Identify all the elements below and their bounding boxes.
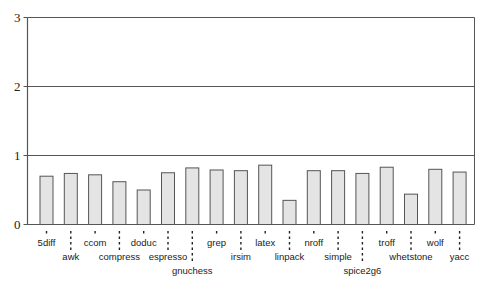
y-tick-label: 1 (14, 148, 21, 163)
bar-compress (113, 182, 126, 225)
x-tick-label: grep (207, 237, 226, 248)
bar-doduc (137, 190, 150, 225)
x-tick-label: ccom (84, 237, 107, 248)
x-tick-label: nroff (304, 237, 323, 248)
bar-simple (332, 171, 345, 225)
bar-gnuchess (186, 168, 199, 225)
bar-whetstone (405, 194, 418, 224)
x-tick-label: simple (324, 251, 351, 262)
y-axis: 0123 (14, 10, 28, 232)
bar-espresso (162, 173, 175, 225)
bar-linpack (283, 200, 296, 224)
bar-5diff (40, 176, 53, 224)
bar-awk (64, 173, 77, 224)
bar-irsim (234, 171, 247, 225)
x-tick-label: espresso (149, 251, 188, 262)
x-tick-label: linpack (275, 251, 305, 262)
x-tick-label: 5diff (38, 237, 56, 248)
x-tick-label: troff (379, 237, 396, 248)
x-axis-labels: 5diffawkccomcompressdoducespressognuches… (38, 231, 470, 276)
x-tick-label: irsim (231, 251, 251, 262)
bar-ccom (89, 175, 102, 225)
bar-latex (259, 165, 272, 224)
x-tick-label: latex (255, 237, 275, 248)
x-tick-label: doduc (131, 237, 157, 248)
bar-spice2g6 (356, 173, 369, 224)
x-tick-label: wolf (426, 237, 444, 248)
x-tick-label: yacc (450, 251, 470, 262)
x-tick-label: awk (62, 251, 79, 262)
bar-wolf (429, 169, 442, 224)
bars (40, 165, 466, 224)
x-tick-label: whetstone (388, 251, 432, 262)
y-tick-label: 2 (14, 79, 21, 94)
y-tick-label: 0 (14, 217, 21, 232)
bar-troff (380, 167, 393, 224)
bar-nroff (307, 171, 320, 225)
y-tick-label: 3 (14, 10, 21, 25)
x-tick-label: gnuchess (172, 265, 213, 276)
bar-yacc (453, 172, 466, 224)
x-tick-label: compress (99, 251, 140, 262)
bar-grep (210, 170, 223, 225)
bar-chart: 0123 5diffawkccomcompressdoducespressogn… (0, 0, 489, 291)
x-tick-label: spice2g6 (343, 265, 381, 276)
